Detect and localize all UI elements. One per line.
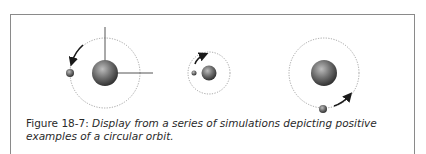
orbiting-planet bbox=[319, 105, 327, 113]
figure-label: Figure 18-7: bbox=[26, 117, 89, 129]
orbiting-planet bbox=[192, 71, 197, 76]
central-star bbox=[202, 66, 217, 81]
simulation-panel-1 bbox=[66, 27, 153, 108]
direction-arrow-icon bbox=[334, 96, 349, 106]
figure-caption: Figure 18-7: Display from a series of si… bbox=[26, 117, 406, 143]
central-star bbox=[92, 60, 118, 86]
simulation-panel-3 bbox=[289, 38, 359, 113]
central-star bbox=[311, 60, 337, 86]
direction-arrow-icon bbox=[72, 45, 83, 62]
simulation-panel-2 bbox=[188, 52, 230, 94]
direction-arrow-icon bbox=[195, 55, 204, 64]
orbiting-planet bbox=[66, 69, 74, 77]
